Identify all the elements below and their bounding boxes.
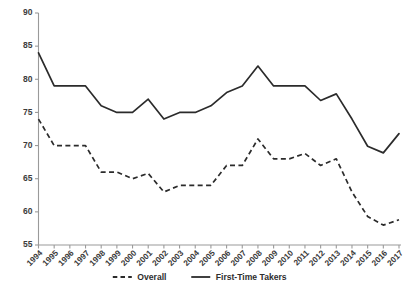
y-tick-label-65: 65 (23, 173, 33, 183)
x-tick-label-1998: 1998 (88, 248, 108, 268)
series-layer (39, 53, 400, 225)
x-tick-label-1995: 1995 (41, 248, 61, 268)
x-tick-label-1997: 1997 (72, 248, 92, 268)
y-tick-label-75: 75 (23, 107, 33, 117)
y-tick-label-90: 90 (23, 7, 33, 17)
x-tick-label-2013: 2013 (323, 248, 343, 268)
x-tick-label-2017: 2017 (386, 248, 406, 268)
x-tick-label-2015: 2015 (354, 248, 374, 268)
y-tick-label-85: 85 (23, 40, 33, 50)
legend-label-first-time-takers: First-Time Takers (216, 272, 287, 282)
x-tick-label-2006: 2006 (213, 248, 233, 268)
x-tick-label-2003: 2003 (166, 248, 186, 268)
x-axis: 1994199519961997199819992000200120022003… (25, 245, 405, 268)
x-tick-label-2011: 2011 (292, 248, 311, 267)
x-tick-label-2014: 2014 (339, 248, 359, 268)
x-tick-label-2012: 2012 (307, 248, 327, 268)
y-tick-label-55: 55 (23, 239, 33, 249)
x-tick-label-2001: 2001 (135, 248, 155, 268)
x-tick-label-2009: 2009 (260, 248, 280, 268)
x-tick-label-2016: 2016 (370, 248, 390, 268)
y-tick-label-60: 60 (23, 206, 33, 216)
x-tick-label-1996: 1996 (57, 248, 77, 268)
x-tick-label-2007: 2007 (229, 248, 249, 268)
x-tick-label-2008: 2008 (245, 248, 265, 268)
series-line-overall (39, 119, 400, 225)
series-line-first-time-takers (39, 53, 400, 153)
y-tick-label-80: 80 (23, 74, 33, 84)
x-tick-label-2005: 2005 (198, 248, 218, 268)
y-axis: 5560657075808590 (23, 7, 38, 249)
chart-canvas: 5560657075808590 19941995199619971998199… (0, 0, 411, 295)
legend-label-overall: Overall (137, 272, 166, 282)
bar-passage-rate-line-chart: 5560657075808590 19941995199619971998199… (0, 0, 411, 295)
x-tick-label-1994: 1994 (25, 248, 45, 268)
x-tick-label-1999: 1999 (104, 248, 124, 268)
x-tick-label-2000: 2000 (119, 248, 139, 268)
chart-legend: OverallFirst-Time Takers (113, 272, 287, 282)
y-tick-label-70: 70 (23, 140, 33, 150)
x-tick-label-2002: 2002 (151, 248, 171, 268)
x-tick-label-2010: 2010 (276, 248, 296, 268)
x-tick-label-2004: 2004 (182, 248, 202, 268)
